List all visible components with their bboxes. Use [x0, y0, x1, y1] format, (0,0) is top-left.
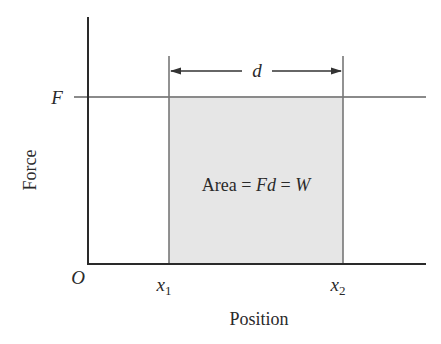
distance-label: d	[252, 60, 262, 81]
work-force-position-diagram: d F Area = Fd = W Force O x1 x2 Position	[0, 0, 441, 344]
x1-label: x1	[156, 274, 172, 298]
origin-label: O	[71, 267, 85, 288]
force-label: F	[50, 87, 63, 108]
y-axis-label: Force	[20, 149, 40, 190]
x2-label: x2	[330, 274, 346, 298]
area-equation: Area = Fd = W	[202, 175, 312, 195]
x-axis-label: Position	[229, 309, 288, 329]
